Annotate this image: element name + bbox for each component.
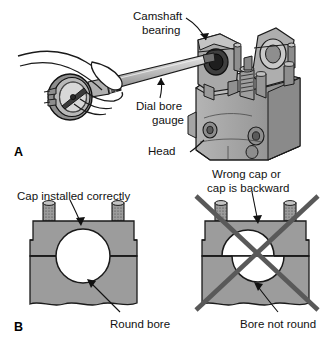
bearing-cap-wrong xyxy=(196,196,318,310)
panel-b-letter: B xyxy=(14,320,23,334)
technical-figure: Camshaft bearing Dial bore gauge Head A xyxy=(0,0,332,344)
label-wrong-cap-line1: Wrong cap or xyxy=(212,168,281,181)
cap-stud-left xyxy=(43,201,55,221)
panel-b-artwork xyxy=(0,0,332,344)
bearing-cap-correct xyxy=(30,201,137,306)
cap-stud-right xyxy=(112,201,124,221)
label-wrong-cap-line2: cap is backward xyxy=(207,182,289,195)
label-bore-not-round: Bore not round xyxy=(240,318,316,331)
label-round-bore: Round bore xyxy=(110,318,170,331)
label-cap-installed-correctly: Cap installed correctly xyxy=(17,190,130,203)
